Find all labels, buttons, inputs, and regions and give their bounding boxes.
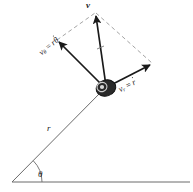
polar-velocity-diagram: v vθ = rθ vr = r r θ bbox=[0, 0, 193, 192]
diagram-canvas bbox=[0, 0, 193, 192]
position-vector-r-line bbox=[12, 89, 104, 182]
vector-v-resultant bbox=[96, 16, 106, 86]
angle-theta-arc bbox=[33, 161, 42, 182]
dashed-edge-right bbox=[96, 13, 152, 63]
dashed-edge-left bbox=[57, 13, 95, 40]
